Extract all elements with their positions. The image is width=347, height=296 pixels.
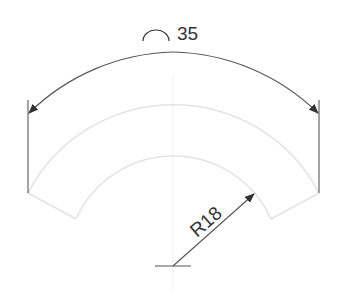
arc-dimension-line (29, 52, 173, 113)
arc-length-value: 35 (177, 23, 198, 44)
arc-length-icon (143, 30, 169, 41)
arc-dimension-line (173, 52, 318, 113)
radius-label: R18 (186, 202, 226, 241)
technical-drawing: 35 R18 (0, 0, 347, 296)
